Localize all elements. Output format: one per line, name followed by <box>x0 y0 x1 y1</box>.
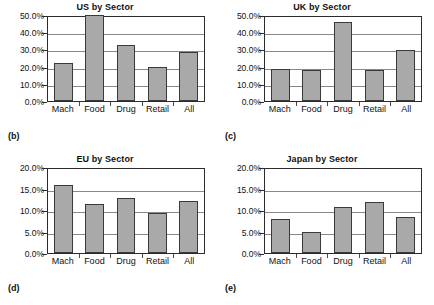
bar <box>396 217 415 253</box>
x-axis-tick-label: All <box>173 104 205 115</box>
bar <box>54 185 73 253</box>
bar <box>271 69 290 101</box>
bar-slot <box>110 169 141 253</box>
x-axis-tick-label: All <box>390 104 422 115</box>
y-axis-tick-label: 20.0% <box>0 63 44 72</box>
y-axis-tick-label: 50.0% <box>0 12 44 21</box>
chart-panel-us: US by Sector 0.0%10.0%20.0%30.0%40.0%50.… <box>0 0 217 152</box>
y-axis-tick-label: 30.0% <box>217 46 261 55</box>
bar-slot <box>327 169 358 253</box>
x-axis-labels: MachFoodDrugRetailAll <box>264 104 422 115</box>
bar-series <box>48 169 204 253</box>
y-axis-tick-label: 20.0% <box>0 164 44 173</box>
chart-panel-eu: EU by Sector 0.0%5.0%10.0%15.0%20.0% Mac… <box>0 152 217 304</box>
x-axis-tick-label: Drug <box>110 256 142 267</box>
bar-slot <box>142 169 173 253</box>
bar-slot <box>173 17 204 101</box>
x-axis-tick-label: Retail <box>359 104 391 115</box>
bar <box>365 202 384 253</box>
bar-series <box>265 17 421 101</box>
x-axis-tick-label: All <box>390 256 422 267</box>
bar <box>396 50 415 101</box>
bar-slot <box>296 169 327 253</box>
bar <box>365 70 384 101</box>
y-axis-tick-label: 40.0% <box>217 29 261 38</box>
bar <box>271 219 290 253</box>
plot-area <box>264 168 422 254</box>
bar-slot <box>48 169 79 253</box>
bar-series <box>265 169 421 253</box>
bar <box>117 198 136 253</box>
y-axis-tick-label: 15.0% <box>0 185 44 194</box>
panel-tag: (b) <box>8 131 20 141</box>
y-axis-tick-label: 10.0% <box>0 81 44 90</box>
y-axis-tick-label: 0.0% <box>0 250 44 259</box>
x-axis-labels: MachFoodDrugRetailAll <box>264 256 422 267</box>
bar-slot <box>390 17 421 101</box>
panel-tag: (c) <box>225 131 236 141</box>
y-axis-tick-label: 20.0% <box>217 63 261 72</box>
bar-slot <box>265 17 296 101</box>
x-axis-tick-label: Food <box>296 104 328 115</box>
bar <box>148 67 167 101</box>
chart-panel-japan: Japan by Sector 0.0%5.0%10.0%15.0%20.0% … <box>217 152 434 304</box>
panel-tag: (e) <box>225 283 236 293</box>
x-axis-tick-label: Mach <box>47 256 79 267</box>
y-axis-tick-label: 15.0% <box>217 185 261 194</box>
bar-slot <box>359 17 390 101</box>
x-axis-labels: MachFoodDrugRetailAll <box>47 256 205 267</box>
x-axis-tick-label: Retail <box>142 256 174 267</box>
x-axis-tick-label: Food <box>296 256 328 267</box>
bar <box>334 207 353 253</box>
bar <box>54 63 73 101</box>
bar-slot <box>327 17 358 101</box>
bar-slot <box>79 17 110 101</box>
x-axis-tick-label: Drug <box>327 104 359 115</box>
bar-slot <box>390 169 421 253</box>
y-axis-tick-label: 0.0% <box>217 250 261 259</box>
y-axis: 0.0%5.0%10.0%15.0%20.0% <box>0 168 44 254</box>
bar-series <box>48 17 204 101</box>
x-axis-tick-label: Food <box>79 256 111 267</box>
y-axis-tick-label: 50.0% <box>217 12 261 21</box>
bar <box>302 70 321 101</box>
bar-slot <box>48 17 79 101</box>
bar <box>302 232 321 254</box>
y-axis-tick-label: 0.0% <box>217 98 261 107</box>
plot-area <box>264 16 422 102</box>
bar <box>117 45 136 101</box>
y-axis-tick-label: 5.0% <box>0 228 44 237</box>
bar <box>179 201 198 253</box>
bar-slot <box>173 169 204 253</box>
y-axis: 0.0%10.0%20.0%30.0%40.0%50.0% <box>0 16 44 102</box>
bar-slot <box>265 169 296 253</box>
x-axis-tick-label: Retail <box>359 256 391 267</box>
chart-panel-uk: UK by Sector 0.0%10.0%20.0%30.0%40.0%50.… <box>217 0 434 152</box>
y-axis: 0.0%5.0%10.0%15.0%20.0% <box>217 168 261 254</box>
y-axis-tick-label: 5.0% <box>217 228 261 237</box>
plot-area <box>47 168 205 254</box>
x-axis-tick-label: Retail <box>142 104 174 115</box>
y-axis-tick-label: 30.0% <box>0 46 44 55</box>
x-axis-tick-label: Mach <box>264 104 296 115</box>
y-axis-tick-label: 10.0% <box>217 81 261 90</box>
x-axis-tick-label: Drug <box>327 256 359 267</box>
bar <box>179 52 198 101</box>
bar-slot <box>296 17 327 101</box>
y-axis-tick-label: 40.0% <box>0 29 44 38</box>
figure-panel-grid: US by Sector 0.0%10.0%20.0%30.0%40.0%50.… <box>0 0 434 305</box>
bar-slot <box>79 169 110 253</box>
x-axis-tick-label: Mach <box>264 256 296 267</box>
x-axis-tick-label: All <box>173 256 205 267</box>
y-axis-tick-label: 10.0% <box>0 207 44 216</box>
y-axis-tick-label: 10.0% <box>217 207 261 216</box>
bar <box>85 15 104 101</box>
bar-slot <box>142 17 173 101</box>
x-axis-tick-label: Food <box>79 104 111 115</box>
x-axis-tick-label: Mach <box>47 104 79 115</box>
plot-area <box>47 16 205 102</box>
bar <box>85 204 104 253</box>
x-axis-labels: MachFoodDrugRetailAll <box>47 104 205 115</box>
panel-tag: (d) <box>8 283 20 293</box>
bar-slot <box>110 17 141 101</box>
